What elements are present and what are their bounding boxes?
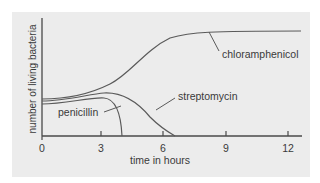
- x-tick-6: 6: [160, 143, 166, 154]
- streptomycin-leader: [156, 98, 175, 110]
- x-tick-12: 12: [282, 143, 294, 154]
- x-tick-0: 0: [39, 143, 45, 154]
- x-tick-3: 3: [98, 143, 104, 154]
- x-tick-9: 9: [223, 143, 229, 154]
- x-axis-label: time in hours: [130, 155, 190, 166]
- streptomycin-label: streptomycin: [178, 91, 238, 102]
- chloramphenicol-leader: [209, 32, 219, 51]
- chloramphenicol-line: [42, 31, 301, 99]
- chloramphenicol-label: chloramphenicol: [222, 49, 298, 60]
- penicillin-label: penicillin: [58, 107, 98, 118]
- y-axis-label: number of living bacteria: [28, 25, 38, 134]
